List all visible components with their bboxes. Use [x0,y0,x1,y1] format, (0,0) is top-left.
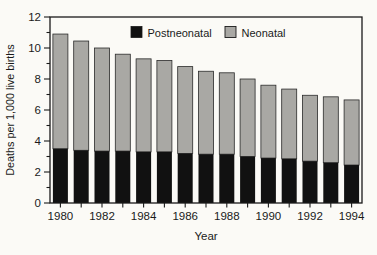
y-axis: 024681012 [28,11,50,209]
x-tick-label: 1994 [339,210,365,222]
y-tick-label: 4 [35,135,42,147]
bar-postneonatal-1993 [323,163,338,203]
x-tick-label: 1988 [214,210,240,222]
y-tick-label: 10 [28,42,41,54]
bar-postneonatal-1991 [282,159,297,203]
y-tick-label: 0 [35,197,41,209]
bar-neonatal-1991 [282,89,297,159]
bar-postneonatal-1980 [53,149,68,203]
x-tick-label: 1984 [131,210,157,222]
bars [53,34,359,203]
bar-postneonatal-1984 [136,152,151,203]
bar-neonatal-1987 [199,71,214,154]
infant-mortality-chart: Deaths per 1,000 live births Year Postne… [0,0,377,255]
bar-neonatal-1985 [157,60,172,151]
bar-neonatal-1984 [136,59,151,152]
bar-postneonatal-1989 [240,157,255,204]
legend-label-neonatal: Neonatal [242,27,286,39]
legend-swatch-neonatal [225,27,236,38]
y-tick-label: 12 [28,11,41,23]
legend-label-postneonatal: Postneonatal [148,27,212,39]
legend-swatch-postneonatal [131,27,142,38]
bar-postneonatal-1981 [74,150,89,203]
bar-neonatal-1990 [261,85,276,158]
bar-neonatal-1981 [74,41,89,150]
y-tick-label: 8 [35,73,41,85]
x-axis-title: Year [194,230,217,242]
chart-canvas: Deaths per 1,000 live births Year Postne… [0,0,377,255]
y-axis-title: Deaths per 1,000 live births [4,44,16,176]
bar-neonatal-1989 [240,79,255,157]
y-tick-label: 2 [35,166,41,178]
bar-postneonatal-1983 [115,151,130,203]
x-axis: 19801982198419861988199019921994 [48,203,365,222]
y-tick-label: 6 [35,104,41,116]
bar-postneonatal-1992 [303,161,318,203]
bar-neonatal-1982 [95,48,110,151]
bar-neonatal-1992 [303,95,318,161]
bar-postneonatal-1987 [199,154,214,203]
bar-neonatal-1994 [344,100,359,165]
bar-neonatal-1986 [178,67,193,154]
x-tick-label: 1986 [172,210,198,222]
x-tick-label: 1990 [256,210,282,222]
bar-neonatal-1993 [323,97,338,163]
bar-postneonatal-1990 [261,158,276,203]
bar-postneonatal-1986 [178,153,193,203]
x-tick-label: 1992 [297,210,323,222]
legend: Postneonatal Neonatal [131,27,286,39]
bar-postneonatal-1985 [157,152,172,203]
bar-neonatal-1983 [115,54,130,151]
x-tick-label: 1982 [89,210,115,222]
bar-postneonatal-1994 [344,165,359,203]
bar-postneonatal-1982 [95,151,110,203]
bar-neonatal-1988 [219,73,234,154]
x-tick-label: 1980 [48,210,74,222]
bar-postneonatal-1988 [219,154,234,203]
bar-neonatal-1980 [53,34,68,149]
